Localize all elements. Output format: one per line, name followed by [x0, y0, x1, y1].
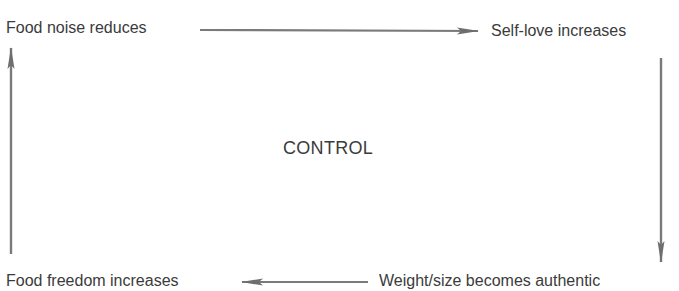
node-food-noise-reduces: Food noise reduces — [6, 19, 147, 37]
node-food-freedom-increases: Food freedom increases — [6, 272, 179, 290]
node-self-love-increases: Self-love increases — [491, 22, 626, 40]
node-weight-size-authentic: Weight/size becomes authentic — [379, 272, 600, 290]
arrow-top-right — [200, 30, 478, 31]
center-label-control: CONTROL — [283, 138, 373, 158]
